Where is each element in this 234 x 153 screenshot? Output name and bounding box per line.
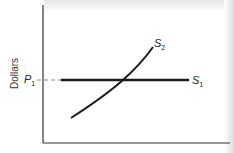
s1-sub: 1 — [199, 81, 203, 88]
s1-label: S1 — [192, 74, 203, 88]
s2-curve — [71, 47, 153, 118]
s2-sub: 2 — [161, 44, 165, 51]
p1-label: P1 — [24, 73, 35, 87]
p1-sub: 1 — [31, 80, 35, 87]
y-axis-label: Dollars — [9, 54, 20, 94]
s2-label: S2 — [154, 37, 165, 51]
